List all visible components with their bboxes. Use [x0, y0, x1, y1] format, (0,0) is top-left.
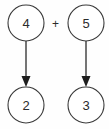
arrow-mapping-diagram: 4 + 5 2 3 — [0, 0, 109, 129]
edge-left-arrowhead — [22, 76, 31, 87]
node-top-right[interactable]: 5 — [68, 5, 104, 41]
edge-left — [22, 41, 31, 87]
node-bottom-left[interactable]: 2 — [8, 87, 44, 123]
node-top-left-label: 4 — [22, 16, 29, 31]
node-top-left[interactable]: 4 — [8, 5, 44, 41]
node-bottom-right[interactable]: 3 — [68, 87, 104, 123]
node-bottom-left-label: 2 — [22, 98, 29, 113]
diagram-canvas: 4 + 5 2 3 — [0, 0, 109, 129]
edge-right — [82, 41, 91, 87]
node-bottom-right-label: 3 — [82, 98, 89, 113]
node-top-right-label: 5 — [82, 16, 89, 31]
plus-operator-icon: + — [52, 17, 59, 31]
edge-right-arrowhead — [82, 76, 91, 87]
